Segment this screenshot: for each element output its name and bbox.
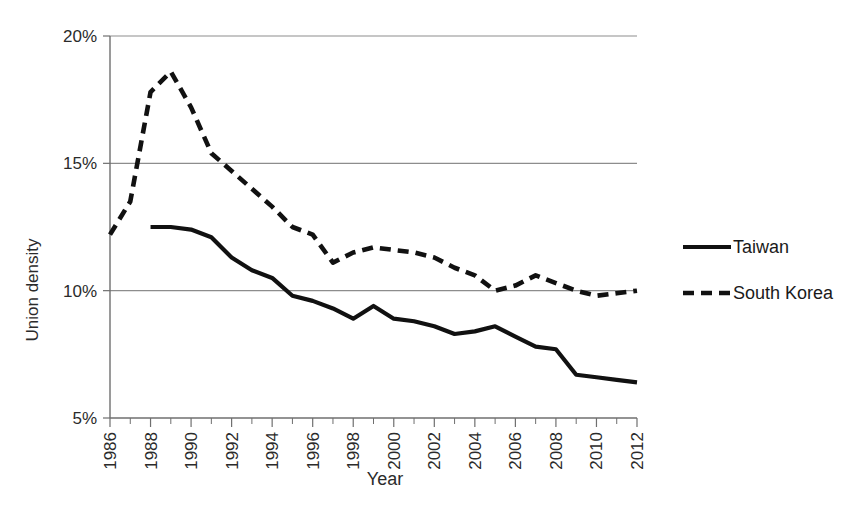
x-tick-label-2006: 2006 bbox=[506, 432, 525, 470]
chart-figure: 20%15%10%5% 1986198819901992199419961998… bbox=[0, 0, 850, 505]
y-tick-label-20: 20% bbox=[63, 27, 97, 46]
x-tick-marks-group bbox=[110, 418, 637, 427]
y-tick-label-15: 15% bbox=[63, 154, 97, 173]
x-axis-title: Year bbox=[367, 469, 403, 489]
x-tick-label-1996: 1996 bbox=[304, 432, 323, 470]
x-tick-labels-group: 1986198819901992199419961998200020022004… bbox=[101, 432, 647, 470]
legend-label-south-korea: South Korea bbox=[733, 283, 834, 303]
y-tick-marks-group bbox=[103, 36, 110, 418]
y-tick-labels-group: 20%15%10%5% bbox=[63, 27, 97, 428]
x-tick-label-2004: 2004 bbox=[466, 432, 485, 470]
series-line-taiwan bbox=[151, 227, 637, 382]
x-tick-label-1990: 1990 bbox=[182, 432, 201, 470]
union-density-line-chart: 20%15%10%5% 1986198819901992199419961998… bbox=[0, 0, 850, 505]
y-tick-label-10: 10% bbox=[63, 282, 97, 301]
x-tick-label-2002: 2002 bbox=[425, 432, 444, 470]
y-axis-title: Union density bbox=[23, 238, 42, 342]
x-tick-label-2008: 2008 bbox=[547, 432, 566, 470]
gridlines-group bbox=[110, 36, 637, 291]
x-tick-label-2010: 2010 bbox=[587, 432, 606, 470]
data-series-group bbox=[110, 72, 637, 383]
x-tick-label-2012: 2012 bbox=[628, 432, 647, 470]
legend: TaiwanSouth Korea bbox=[683, 237, 834, 303]
y-tick-label-5: 5% bbox=[72, 409, 97, 428]
x-tick-label-1994: 1994 bbox=[263, 432, 282, 470]
legend-label-taiwan: Taiwan bbox=[733, 237, 789, 257]
x-tick-label-1988: 1988 bbox=[142, 432, 161, 470]
x-tick-label-1998: 1998 bbox=[344, 432, 363, 470]
x-tick-label-2000: 2000 bbox=[385, 432, 404, 470]
x-tick-label-1986: 1986 bbox=[101, 432, 120, 470]
series-line-south-korea bbox=[110, 72, 637, 296]
x-tick-label-1992: 1992 bbox=[223, 432, 242, 470]
